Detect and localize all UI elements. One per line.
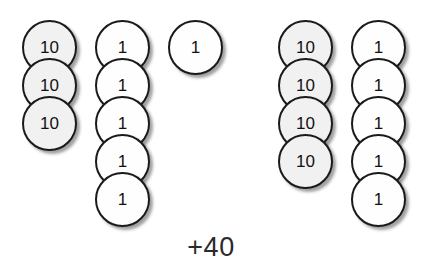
coin-1[interactable]: 1: [351, 172, 406, 227]
coin-10[interactable]: 10: [22, 96, 77, 151]
coin-value-label: 1: [374, 191, 383, 208]
coin-value-label: 10: [296, 115, 315, 132]
tens-stack-left: 101010: [22, 20, 77, 151]
coin-value-label: 1: [374, 153, 383, 170]
coin-value-label: 1: [118, 191, 127, 208]
coin-value-label: 1: [191, 39, 200, 56]
coin-10[interactable]: 10: [278, 134, 333, 189]
coin-value-label: 1: [118, 77, 127, 94]
coin-value-label: 1: [374, 115, 383, 132]
coin-value-label: 1: [118, 115, 127, 132]
tens-stack-right: 10101010: [278, 20, 333, 189]
coin-value-label: 1: [374, 77, 383, 94]
coin-value-label: 1: [118, 39, 127, 56]
coin-value-label: 1: [374, 39, 383, 56]
coin-1[interactable]: 1: [168, 20, 223, 75]
ones-stack-right: 11111: [351, 20, 406, 227]
coin-value-label: 10: [40, 77, 59, 94]
coin-value-label: 10: [296, 77, 315, 94]
coin-1[interactable]: 1: [95, 172, 150, 227]
ones-stack-left: 11111: [95, 20, 150, 227]
single-one-coin: 1: [168, 20, 223, 75]
caption-label: +40: [0, 232, 422, 263]
coin-value-label: 10: [296, 39, 315, 56]
coin-value-label: 10: [296, 153, 315, 170]
coin-value-label: 10: [40, 39, 59, 56]
coin-value-label: 1: [118, 153, 127, 170]
coin-value-label: 10: [40, 115, 59, 132]
